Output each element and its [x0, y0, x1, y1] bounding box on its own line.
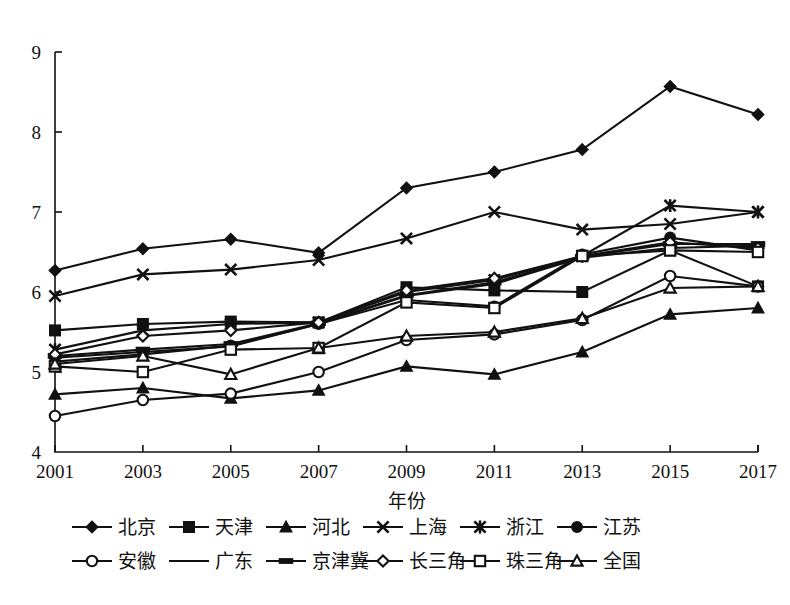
- marker-open-square: [577, 251, 587, 261]
- x-axis-title: 年份: [388, 491, 426, 512]
- marker-filled-square: [50, 325, 60, 335]
- legend-item-北京[interactable]: 北京: [72, 517, 156, 538]
- x-tick-label: 2011: [476, 461, 513, 482]
- marker-open-diamond: [377, 555, 388, 566]
- marker-filled-square: [184, 522, 194, 532]
- marker-open-square: [138, 367, 148, 377]
- marker-open-circle: [138, 395, 148, 405]
- series-line: [55, 86, 758, 270]
- x-tick-label: 2007: [300, 461, 338, 482]
- marker-open-circle: [665, 271, 675, 281]
- marker-open-square: [401, 297, 411, 307]
- marker-filled-triangle: [577, 346, 588, 356]
- legend-item-天津[interactable]: 天津: [169, 517, 253, 538]
- marker-filled-circle: [572, 522, 582, 532]
- legend-label: 珠三角: [506, 551, 563, 572]
- marker-filled-square: [577, 287, 587, 297]
- x-tick-label: 2013: [563, 461, 601, 482]
- y-tick-label: 6: [32, 282, 42, 303]
- series-line: [55, 250, 758, 372]
- marker-open-square: [489, 303, 499, 313]
- legend-item-京津冀[interactable]: 京津冀: [266, 551, 369, 572]
- marker-open-square: [226, 344, 236, 354]
- legend-label: 安徽: [118, 551, 156, 572]
- legend-item-江苏[interactable]: 江苏: [557, 517, 641, 538]
- x-tick-label: 2003: [124, 461, 162, 482]
- x-tick-label: 2017: [739, 461, 777, 482]
- legend-label: 浙江: [506, 517, 544, 538]
- marker-filled-diamond: [49, 265, 60, 276]
- x-axis-ticks: 200120032005200720092011201320152017年份: [36, 445, 777, 512]
- marker-open-triangle: [571, 555, 582, 565]
- marker-open-square: [475, 556, 485, 566]
- legend-item-全国[interactable]: 全国: [557, 551, 641, 572]
- marker-open-circle: [313, 367, 323, 377]
- x-tick-label: 2015: [651, 461, 689, 482]
- series-10: [50, 245, 763, 377]
- marker-open-triangle: [401, 330, 412, 340]
- marker-filled-diamond: [86, 521, 97, 532]
- marker-open-square: [753, 247, 763, 257]
- marker-open-triangle: [225, 369, 236, 379]
- legend-item-广东[interactable]: 广东: [169, 551, 253, 572]
- marker-filled-diamond: [137, 243, 148, 254]
- marker-open-circle: [50, 411, 60, 421]
- y-tick-label: 4: [32, 442, 42, 463]
- legend-label: 江苏: [603, 517, 641, 538]
- y-tick-label: 9: [32, 42, 42, 63]
- series-group: [49, 81, 765, 421]
- series-line: [55, 206, 758, 350]
- legend-item-安徽[interactable]: 安徽: [72, 551, 156, 572]
- legend-item-长三角[interactable]: 长三角: [363, 551, 466, 572]
- x-tick-label: 2005: [212, 461, 250, 482]
- marker-filled-square: [489, 285, 499, 295]
- marker-open-circle: [87, 556, 97, 566]
- legend-label: 河北: [312, 517, 350, 538]
- y-tick-label: 7: [32, 202, 42, 223]
- y-tick-label: 8: [32, 122, 42, 143]
- legend-label: 天津: [215, 517, 253, 538]
- legend-label: 上海: [409, 517, 447, 538]
- legend-label: 广东: [215, 551, 253, 572]
- legend-item-珠三角[interactable]: 珠三角: [460, 551, 563, 572]
- line-chart: 4567892001200320052007200920112013201520…: [0, 0, 790, 605]
- marker-filled-diamond: [489, 166, 500, 177]
- legend-item-上海[interactable]: 上海: [363, 517, 447, 538]
- marker-open-triangle: [665, 282, 676, 292]
- chart-canvas: 4567892001200320052007200920112013201520…: [0, 0, 790, 605]
- legend-item-河北[interactable]: 河北: [266, 517, 350, 538]
- y-tick-label: 5: [32, 362, 42, 383]
- marker-h-bar: [280, 559, 293, 563]
- legend-label: 北京: [118, 517, 156, 538]
- legend-label: 京津冀: [312, 551, 369, 572]
- x-tick-label: 2001: [36, 461, 74, 482]
- marker-open-triangle: [577, 313, 588, 323]
- legend-label: 全国: [603, 551, 641, 572]
- marker-open-circle: [226, 388, 236, 398]
- y-axis-ticks: 456789: [32, 42, 63, 463]
- legend-item-浙江[interactable]: 浙江: [460, 517, 544, 538]
- legend-label: 长三角: [409, 551, 466, 572]
- x-tick-label: 2009: [388, 461, 426, 482]
- marker-open-triangle: [489, 326, 500, 336]
- marker-filled-diamond: [752, 109, 763, 120]
- marker-filled-diamond: [225, 234, 236, 245]
- legend: 北京天津河北上海浙江江苏安徽广东京津冀长三角珠三角全国: [72, 517, 641, 572]
- marker-open-square: [665, 245, 675, 255]
